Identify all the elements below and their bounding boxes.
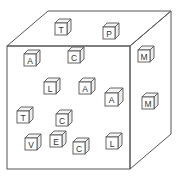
letter-cube: P bbox=[103, 23, 119, 39]
letter-cube-label: A bbox=[27, 56, 33, 66]
letter-cube: V bbox=[25, 134, 41, 150]
letter-cube: T bbox=[55, 19, 71, 35]
letter-cube: M bbox=[142, 93, 158, 109]
letter-cube: A bbox=[105, 88, 123, 106]
letter-cube-label: E bbox=[53, 137, 59, 147]
letter-cube: E bbox=[50, 131, 66, 147]
letter-cube-label: T bbox=[20, 113, 25, 123]
letter-cube: M bbox=[138, 46, 154, 62]
letter-cube-label: A bbox=[109, 95, 115, 105]
big-cube-right-face bbox=[130, 11, 171, 169]
letter-cube: T bbox=[17, 107, 33, 123]
small-cubes-group: TPACMLAAMTCVECL bbox=[17, 19, 158, 154]
letter-cube-label: T bbox=[58, 25, 63, 35]
letter-cube: A bbox=[24, 50, 40, 66]
lettered-cubes-diagram: TPACMLAAMTCVECL bbox=[0, 0, 182, 184]
letter-cube-label: A bbox=[82, 84, 88, 94]
letter-cube: A bbox=[79, 78, 95, 94]
letter-cube-label: L bbox=[48, 84, 53, 94]
letter-cube: C bbox=[73, 138, 89, 154]
letter-cube-label: M bbox=[140, 52, 147, 62]
letter-cube-label: V bbox=[28, 140, 34, 150]
letter-cube-label: L bbox=[110, 139, 115, 149]
big-cube-top-face bbox=[7, 11, 171, 46]
letter-cube: C bbox=[68, 47, 84, 63]
letter-cube-label: M bbox=[144, 99, 151, 109]
letter-cube-label: C bbox=[59, 116, 65, 126]
letter-cube-label: P bbox=[106, 29, 112, 39]
letter-cube: L bbox=[44, 78, 60, 94]
letter-cube: C bbox=[56, 110, 72, 126]
letter-cube: L bbox=[106, 133, 122, 149]
letter-cube-label: C bbox=[76, 144, 82, 154]
letter-cube-label: C bbox=[71, 53, 77, 63]
